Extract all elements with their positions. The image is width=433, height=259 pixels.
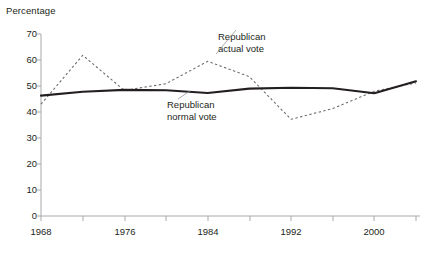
axes bbox=[35, 34, 420, 221]
chart-plot-area bbox=[0, 0, 433, 259]
x-tick-marks bbox=[41, 216, 416, 221]
chart-figure: Percentage 70 60 50 40 30 20 10 0 1968 1… bbox=[0, 0, 433, 259]
leader-line-actual-vote bbox=[216, 30, 236, 54]
series-line-normal-vote bbox=[41, 81, 416, 95]
series-line-actual-vote bbox=[41, 55, 416, 119]
y-tick-marks bbox=[35, 34, 41, 216]
